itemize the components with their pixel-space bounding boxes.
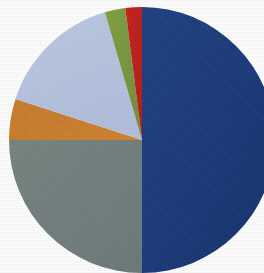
- pie-chart-canvas: [0, 0, 264, 273]
- pie-chart-figure: Pie chart with six segments: [0, 0, 264, 273]
- pie-slices-group: [9, 7, 264, 273]
